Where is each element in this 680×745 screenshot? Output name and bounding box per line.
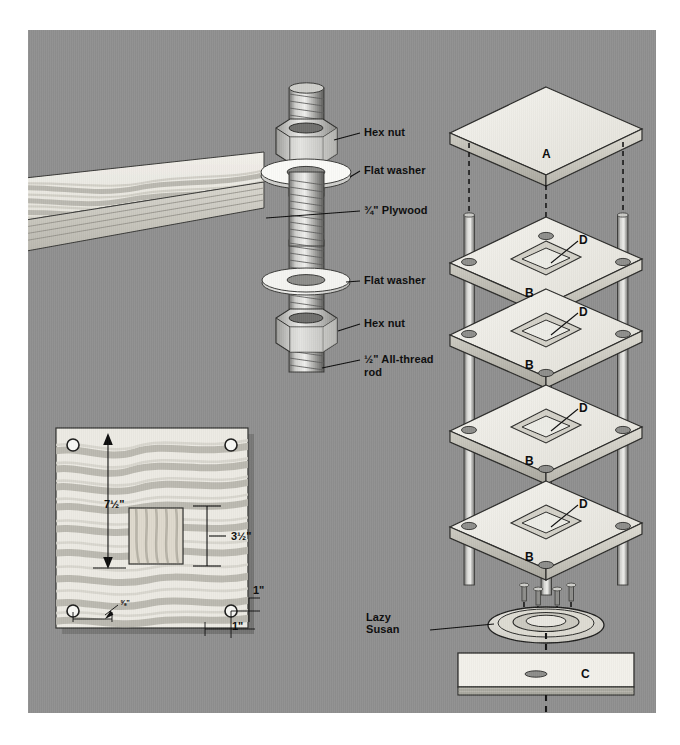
dimension-label-square-size: 3½" bbox=[231, 530, 252, 542]
callout-label-flat-washer-top: Flat washer bbox=[364, 164, 426, 176]
leader-lazy-susan bbox=[430, 624, 494, 630]
callout-label-all-thread-rod-line2: rod bbox=[364, 366, 382, 378]
plate-a-shape bbox=[450, 87, 642, 186]
template-center-cutout bbox=[129, 508, 183, 564]
cutout-label-d-4: D bbox=[579, 497, 588, 511]
plywood-sheet bbox=[28, 152, 268, 258]
lower-fastener-stack bbox=[262, 240, 350, 372]
illustration-panel: Hex nut Flat washer ¾" Plywood Flat wash… bbox=[28, 30, 656, 713]
upper-fastener-stack bbox=[261, 83, 351, 248]
plate-b-2-shape bbox=[450, 289, 642, 388]
dimension-label-edge-inset-right: 1" bbox=[253, 584, 264, 596]
dimension-label-vertical-offset: 7½" bbox=[104, 498, 125, 510]
exploded-assembly bbox=[418, 85, 656, 710]
cutout-label-d-3: D bbox=[579, 401, 588, 415]
callout-label-flat-washer-bottom: Flat washer bbox=[364, 274, 426, 286]
dimension-label-edge-inset-bottom: 1" bbox=[232, 620, 243, 632]
callout-label-hex-nut-bottom: Hex nut bbox=[364, 317, 405, 329]
callout-label-hex-nut-top: Hex nut bbox=[364, 126, 405, 138]
lazy-susan-label-line1: Lazy bbox=[366, 611, 391, 623]
plate-b-4-shape bbox=[450, 481, 642, 580]
cutout-label-d-1: D bbox=[579, 233, 588, 247]
flat-washer-bottom-shape bbox=[262, 268, 350, 295]
hex-nut-bottom-shape bbox=[276, 309, 337, 352]
lazy-susan-label-line2: Susan bbox=[366, 623, 400, 635]
illustration-page: Hex nut Flat washer ¾" Plywood Flat wash… bbox=[0, 0, 680, 745]
plate-label-b-1: B bbox=[525, 286, 534, 300]
cutout-label-d-2: D bbox=[579, 305, 588, 319]
plate-label-b-3: B bbox=[525, 454, 534, 468]
hex-nut-top-shape bbox=[276, 119, 337, 163]
plate-c-shape bbox=[458, 633, 634, 713]
plate-label-b-4: B bbox=[525, 550, 534, 564]
plate-label-c: C bbox=[581, 667, 590, 681]
plate-label-a: A bbox=[542, 147, 551, 161]
plate-b-3-shape bbox=[450, 385, 642, 484]
plate-label-b-2: B bbox=[525, 358, 534, 372]
dimension-label-hole-diameter: ⅝" bbox=[120, 598, 130, 607]
